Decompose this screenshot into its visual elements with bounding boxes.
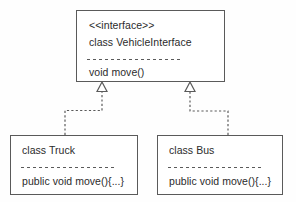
truck-inheritance-arrowhead-icon	[97, 82, 107, 92]
realization-connector-truck	[65, 82, 107, 135]
uml-class-diagram: VehicleInterface --> VehicleInterface --…	[0, 0, 296, 202]
interface-compartment-separator	[87, 59, 183, 60]
interface-class-box[interactable]: <<interface>> class VehicleInterface voi…	[76, 10, 225, 82]
bus-method-label: public void move(){...}	[169, 176, 271, 187]
interface-method-label: void move()	[89, 67, 144, 78]
truck-compartment-separator	[21, 167, 115, 168]
bus-inheritance-arrowhead-icon	[185, 82, 195, 92]
truck-class-box[interactable]: class Truck public void move(){...}	[10, 135, 138, 195]
bus-connector-line	[190, 92, 228, 136]
interface-stereotype-label: <<interface>>	[89, 20, 154, 31]
interface-name-label: class VehicleInterface	[89, 37, 192, 48]
realization-connector-bus	[185, 82, 228, 135]
bus-name-label: class Bus	[169, 145, 214, 156]
bus-class-box[interactable]: class Bus public void move(){...}	[157, 135, 283, 195]
truck-method-label: public void move(){...}	[22, 176, 124, 187]
bus-compartment-separator	[168, 167, 262, 168]
truck-connector-line	[65, 92, 102, 136]
truck-name-label: class Truck	[22, 145, 75, 156]
